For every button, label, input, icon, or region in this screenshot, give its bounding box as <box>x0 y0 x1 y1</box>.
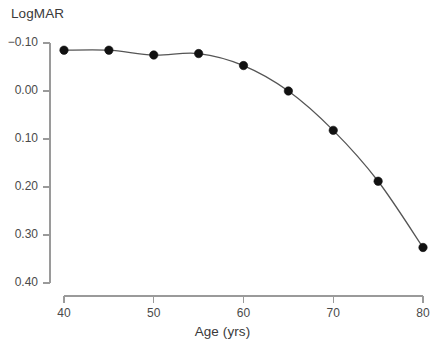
data-series-markers <box>60 46 427 252</box>
x-tick-label-1: 50 <box>134 306 174 320</box>
y-tick-label-5: 0.40 <box>0 275 38 289</box>
data-point-80 <box>419 243 427 251</box>
data-point-65 <box>284 87 292 95</box>
x-tick-label-0: 40 <box>44 306 84 320</box>
data-point-75 <box>374 177 382 185</box>
y-tick-label-2: 0.10 <box>0 131 38 145</box>
data-series-line <box>64 50 423 248</box>
plot-area <box>0 0 445 354</box>
y-tick-label-4: 0.30 <box>0 227 38 241</box>
data-point-40 <box>60 46 68 54</box>
x-tick-label-4: 80 <box>403 306 443 320</box>
data-point-60 <box>239 61 247 69</box>
series-path <box>64 50 423 248</box>
axis-lines <box>43 43 423 303</box>
x-tick-label-3: 70 <box>313 306 353 320</box>
data-point-70 <box>329 126 337 134</box>
data-point-55 <box>194 49 202 57</box>
data-point-45 <box>105 46 113 54</box>
chart-figure: LogMAR Age (yrs) −0.100.000.100.200.300.… <box>0 0 445 354</box>
y-tick-label-0: −0.10 <box>0 35 38 49</box>
y-tick-label-1: 0.00 <box>0 83 38 97</box>
y-tick-label-3: 0.20 <box>0 179 38 193</box>
data-point-50 <box>150 51 158 59</box>
x-tick-label-2: 60 <box>224 306 264 320</box>
